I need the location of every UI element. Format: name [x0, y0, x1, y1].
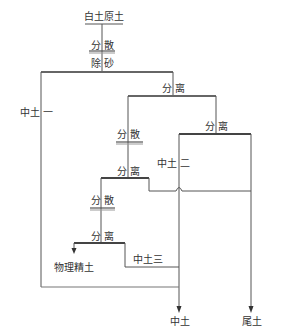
flowchart	[0, 0, 281, 334]
step-separate-1: 分 离	[162, 83, 185, 94]
step-separate-2: 分 离	[205, 121, 228, 132]
raw-material-label: 白土原土	[84, 11, 124, 22]
step-separate-3: 分 离	[117, 166, 140, 177]
step-disperse-3: 分 散	[91, 195, 114, 206]
step-separate-4: 分 离	[91, 231, 114, 242]
product-middle-output: 中土	[170, 316, 190, 327]
product-refined: 物理精土	[54, 262, 94, 273]
step-disperse-2: 分 散	[117, 129, 140, 140]
product-middle-3: 中土三	[133, 254, 163, 265]
product-middle-1: 中土 一	[20, 107, 53, 118]
step-disperse-1: 分 散	[91, 40, 114, 51]
product-tailings: 尾土	[242, 316, 262, 327]
step-desand: 除 砂	[91, 58, 114, 69]
product-middle-2: 中土 二	[157, 158, 190, 169]
